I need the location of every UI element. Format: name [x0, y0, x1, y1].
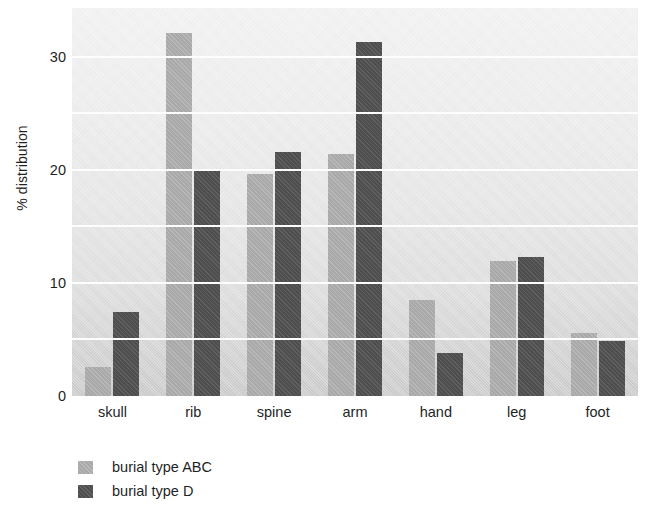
x-tick-hand: hand [420, 404, 452, 420]
x-tick-skull: skull [98, 404, 127, 420]
bar-hand-d [437, 353, 463, 396]
bar-foot-d [599, 341, 625, 396]
y-tick-30: 30 [20, 49, 66, 65]
y-tick-20: 20 [20, 162, 66, 178]
bar-rib-abc [166, 33, 192, 396]
chart-legend: burial type ABCburial type D [78, 455, 212, 503]
bar-spine-d [275, 152, 301, 396]
x-tick-leg: leg [507, 404, 526, 420]
gridline-10 [72, 282, 638, 284]
bar-chart: % distribution 0102030 skullribspinearmh… [0, 0, 649, 507]
x-tick-arm: arm [343, 404, 368, 420]
bar-skull-abc [85, 367, 111, 396]
x-tick-rib: rib [185, 404, 201, 420]
bar-hand-abc [409, 300, 435, 396]
legend-item-abc: burial type ABC [78, 455, 212, 479]
y-tick-0: 0 [20, 388, 66, 404]
bar-spine-abc [247, 174, 273, 396]
legend-swatch-dark [78, 485, 93, 498]
legend-swatch-light [78, 461, 93, 474]
gridline-15 [72, 225, 638, 227]
bar-foot-abc [571, 333, 597, 396]
gridline-30 [72, 56, 638, 58]
legend-label: burial type D [112, 483, 193, 499]
legend-item-d: burial type D [78, 479, 212, 503]
legend-label: burial type ABC [112, 459, 212, 475]
plot-area [72, 8, 638, 396]
gridline-25 [72, 112, 638, 114]
y-axis-tick-labels: 0102030 [14, 0, 66, 507]
gridline-5 [72, 338, 638, 340]
x-tick-foot: foot [585, 404, 609, 420]
y-tick-10: 10 [20, 275, 66, 291]
bar-leg-d [518, 257, 544, 396]
x-tick-spine: spine [257, 404, 292, 420]
bar-arm-abc [328, 154, 354, 396]
bar-arm-d [356, 42, 382, 396]
gridline-20 [72, 169, 638, 171]
x-axis-tick-labels: skullribspinearmhandlegfoot [72, 404, 638, 428]
bar-skull-d [113, 312, 139, 396]
